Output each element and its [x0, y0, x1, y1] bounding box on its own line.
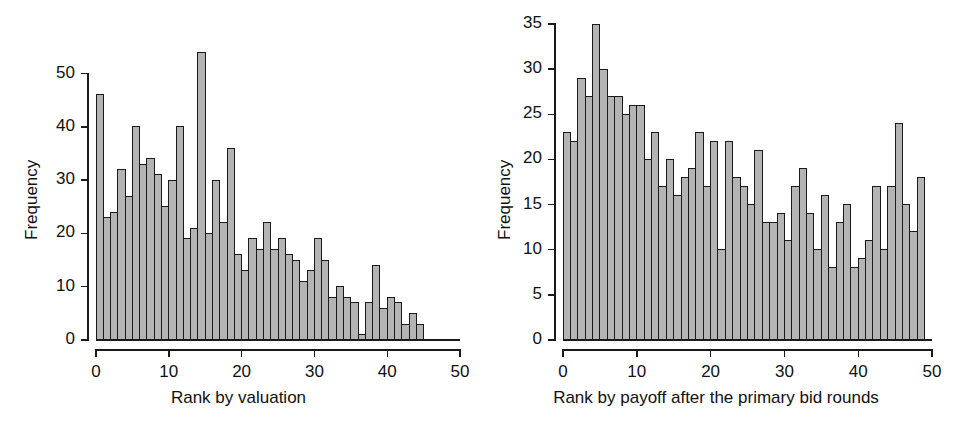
x-tick-label: 0 — [71, 362, 121, 382]
x-tick-label: 10 — [612, 362, 662, 382]
x-tick-label: 20 — [686, 362, 736, 382]
right-x-axis-label: Rank by payoff after the primary bid rou… — [477, 388, 955, 408]
histogram-figure: Frequency Rank by valuation 010203040500… — [0, 0, 955, 431]
x-tick-label: 50 — [907, 362, 955, 382]
y-tick-label: 5 — [496, 284, 542, 304]
y-tick-label: 15 — [496, 194, 542, 214]
y-tick-label: 35 — [496, 13, 542, 33]
panel-rank-by-valuation: Frequency Rank by valuation 010203040500… — [0, 0, 477, 431]
y-tick-label: 0 — [496, 329, 542, 349]
x-tick-label: 10 — [144, 362, 194, 382]
y-tick-label: 30 — [29, 169, 75, 189]
x-tick-label: 40 — [833, 362, 883, 382]
panel-rank-by-payoff: Frequency Rank by payoff after the prima… — [477, 0, 955, 431]
y-tick-label: 40 — [29, 116, 75, 136]
y-tick-label: 20 — [29, 222, 75, 242]
x-tick-label: 30 — [289, 362, 339, 382]
y-tick-label: 10 — [29, 276, 75, 296]
x-tick-label: 0 — [538, 362, 588, 382]
y-tick-label: 30 — [496, 58, 542, 78]
y-tick-label: 0 — [29, 329, 75, 349]
y-tick-label: 25 — [496, 103, 542, 123]
x-tick-label: 30 — [759, 362, 809, 382]
x-tick-label: 40 — [362, 362, 412, 382]
y-tick-label: 50 — [29, 63, 75, 83]
left-x-axis-label: Rank by valuation — [0, 388, 477, 408]
y-tick-label: 10 — [496, 239, 542, 259]
y-tick-label: 20 — [496, 148, 542, 168]
x-tick-label: 20 — [217, 362, 267, 382]
